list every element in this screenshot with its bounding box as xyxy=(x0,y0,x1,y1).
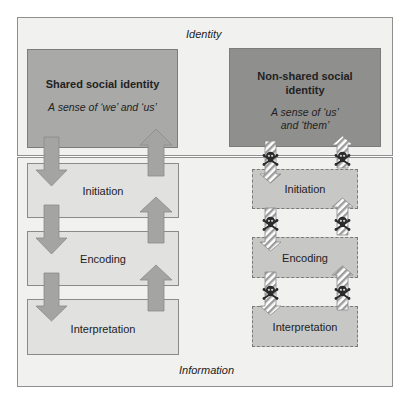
down-arrow-icon xyxy=(36,205,67,254)
up-arrow-icon xyxy=(140,129,172,176)
solid-arrows-layer xyxy=(0,0,412,402)
down-arrow-icon xyxy=(36,137,67,186)
up-arrow-icon xyxy=(140,265,172,311)
down-arrow-icon xyxy=(36,273,67,321)
up-arrow-icon xyxy=(140,197,172,243)
